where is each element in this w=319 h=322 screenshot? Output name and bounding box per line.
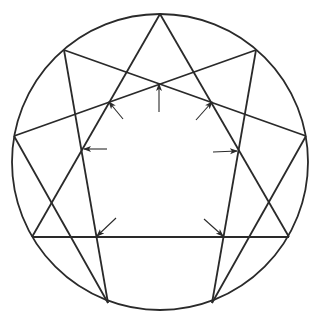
star-lines — [14, 14, 306, 303]
arrow-upper-left-icon — [109, 102, 123, 119]
arrow-upper-right-icon — [196, 102, 212, 120]
diagram-svg — [0, 0, 319, 322]
arrow-lower-right-icon — [204, 219, 223, 236]
outer-circle — [12, 14, 308, 310]
enneagram-diagram — [0, 0, 319, 322]
arrow-right-icon — [213, 151, 237, 152]
arrow-lower-left-icon — [97, 218, 116, 236]
line-top-to-lower-right — [160, 14, 289, 237]
